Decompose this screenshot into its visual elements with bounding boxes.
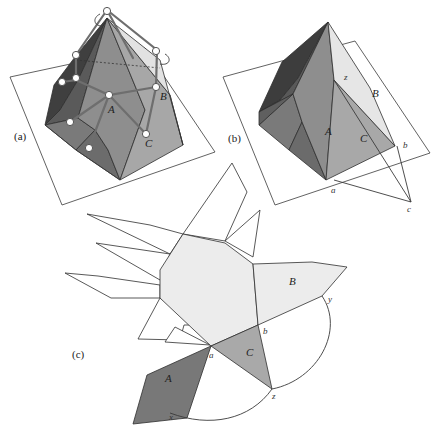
face-label-B-a: B xyxy=(160,90,167,102)
point-label-x-c: x xyxy=(168,412,173,422)
face-label-A-a: A xyxy=(107,103,115,115)
face-label-A-c: A xyxy=(164,372,172,384)
face-label-C-b: C xyxy=(360,132,368,144)
point-label-a-c: a xyxy=(209,350,214,360)
cut-line-b-c xyxy=(397,146,411,202)
panel-b: z B A C b a c (b) xyxy=(223,22,430,214)
point-label-z-b: z xyxy=(343,72,348,82)
panel-label-b: (b) xyxy=(228,132,241,145)
panel-c: B C A y b a z x (c) xyxy=(65,163,347,424)
face-label-B-c: B xyxy=(289,275,296,287)
net-face-B xyxy=(253,262,347,325)
face-label-C-c: C xyxy=(246,346,254,358)
graph-node-left-top xyxy=(72,51,79,58)
face-label-C-a: C xyxy=(145,137,153,149)
face-label-A-b: A xyxy=(324,125,332,137)
point-label-c-b: c xyxy=(407,204,411,214)
graph-node-low-2 xyxy=(85,144,92,151)
panel-label-a: (a) xyxy=(14,130,27,143)
figure-canvas: A B C (a) z B A C b a c (b) xyxy=(0,0,441,434)
point-label-y-c: y xyxy=(327,294,332,304)
point-label-b-c: b xyxy=(263,326,268,336)
graph-node-low-1 xyxy=(66,118,73,125)
point-label-a-b: a xyxy=(331,185,336,195)
point-label-b-b: b xyxy=(403,140,408,150)
graph-node-right-top xyxy=(152,47,159,54)
graph-node-apex xyxy=(103,7,110,14)
rotate-arrow-right xyxy=(160,54,169,64)
graph-node-B xyxy=(152,83,159,90)
graph-node-left-1 xyxy=(58,78,65,85)
net-flap-left-1 xyxy=(87,214,183,254)
face-label-B-b: B xyxy=(372,87,379,99)
graph-node-A xyxy=(105,91,112,98)
net-flap-left-3 xyxy=(65,273,160,298)
panel-a: A B C (a) xyxy=(10,7,215,205)
point-label-z-c: z xyxy=(271,391,276,401)
net-flap-top-1 xyxy=(183,163,247,241)
graph-node-left-2 xyxy=(72,74,79,81)
panel-label-c: (c) xyxy=(72,348,85,361)
